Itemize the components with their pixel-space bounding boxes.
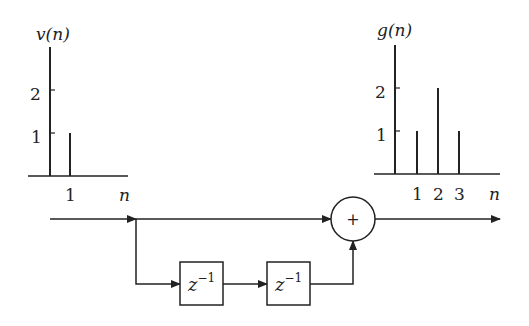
input-plot-title: v(n) (36, 24, 70, 44)
x-tick-label-1: 1 (65, 185, 76, 205)
x-axis-label: n (119, 185, 130, 205)
x-tick-label-3: 3 (454, 184, 465, 204)
y-tick-label-2: 2 (30, 84, 41, 104)
x-axis-label: n (489, 184, 500, 204)
y-tick-label-1: 1 (376, 125, 387, 145)
y-tick-label-1: 1 (31, 127, 42, 147)
x-tick-label-1: 1 (412, 184, 423, 204)
x-tick-label-2: 2 (433, 184, 444, 204)
output-plot: g(n) 2 1 1 2 3 n (374, 20, 500, 204)
adder-symbol: + (346, 210, 359, 229)
output-plot-title: g(n) (377, 20, 412, 40)
y-tick-label-2: 2 (375, 82, 386, 102)
diagram-canvas: v(n) 2 1 1 n g(n) 2 1 1 2 3 n (0, 0, 529, 326)
block-diagram: z−1 z−1 + (50, 197, 500, 305)
delayed-path-arrow (310, 241, 353, 284)
branch-to-delay-1 (136, 219, 180, 284)
input-plot: v(n) 2 1 1 n (28, 24, 130, 205)
